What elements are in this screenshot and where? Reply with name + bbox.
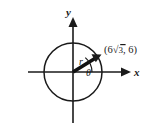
y-axis-arrowhead-icon: [69, 17, 78, 27]
angle-label: θ: [86, 67, 91, 78]
coordinate-diagram-svg: y x r θ (6√3, 6): [0, 0, 165, 132]
label-close-paren: ): [134, 44, 138, 56]
svg-text:(6√3, 6): (6√3, 6): [104, 44, 138, 56]
x-axis-arrowhead-icon: [121, 68, 131, 77]
point-coordinate-label: (6√3, 6): [104, 44, 138, 56]
x-axis-label: x: [133, 66, 140, 78]
y-axis-label: y: [64, 6, 71, 18]
radius-label: r: [79, 56, 83, 67]
terminal-ray: [73, 58, 97, 73]
figure-container: y x r θ (6√3, 6): [0, 0, 165, 132]
